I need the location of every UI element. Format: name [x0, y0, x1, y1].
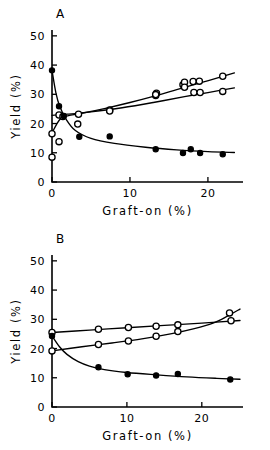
data-point-filled-circle [188, 147, 193, 152]
y-axis-title: Yield (%) [9, 73, 23, 139]
data-point-open-circle-lower [153, 333, 159, 339]
data-point-filled-circle [56, 104, 61, 109]
x-tick-label: 0 [48, 187, 56, 200]
data-point-open-circle-lower [56, 139, 62, 145]
panel-letter: A [56, 7, 65, 21]
x-tick-label: 20 [200, 187, 215, 200]
data-point-open-circle-upper [228, 318, 234, 324]
y-tick-label: 10 [30, 372, 45, 385]
data-point-filled-circle [175, 371, 180, 376]
data-point-open-circle-lower [153, 92, 159, 98]
data-point-open-circle-lower [107, 108, 113, 114]
y-tick-label: 20 [30, 343, 45, 356]
data-point-open-circle-upper [196, 78, 202, 84]
data-point-filled-circle [77, 134, 82, 139]
data-point-open-circle-lower [75, 121, 81, 127]
data-point-filled-circle [180, 150, 185, 155]
data-point-open-circle-lower [220, 88, 226, 94]
data-point-filled-circle [198, 150, 203, 155]
y-tick-label: 30 [30, 88, 45, 101]
x-axis-title: Graft-on (%) [102, 429, 193, 443]
data-point-filled-circle [154, 373, 159, 378]
data-point-open-circle-upper [49, 131, 55, 137]
y-tick-label: 20 [30, 118, 45, 131]
x-axis-title: Graft-on (%) [102, 204, 193, 218]
x-tick-label: 0 [48, 412, 56, 425]
y-tick-label: 30 [30, 313, 45, 326]
data-point-open-circle-lower [95, 341, 101, 347]
figure-container: 0102030405001020Graft-on (%)Yield (%)A 0… [0, 0, 270, 450]
data-point-filled-circle [61, 113, 66, 118]
data-point-open-circle-upper [190, 78, 196, 84]
curve-open-circle-lower [52, 309, 240, 351]
curve-open-circle-upper [52, 320, 240, 332]
data-point-open-circle-lower [226, 310, 232, 316]
data-point-open-circle-upper [220, 73, 226, 79]
data-point-open-circle-upper [125, 324, 131, 330]
data-point-open-circle-lower [49, 154, 55, 160]
y-tick-label: 50 [30, 30, 45, 43]
data-point-open-circle-upper [95, 326, 101, 332]
axis-lines [52, 30, 243, 182]
data-point-open-circle-upper [175, 322, 181, 328]
panel-a-plot: 0102030405001020Graft-on (%)Yield (%)A [0, 0, 270, 225]
data-point-filled-circle [125, 372, 130, 377]
panel-b-plot: 0102030405001020Graft-on (%)Yield (%)B [0, 225, 270, 450]
data-point-filled-circle [228, 377, 233, 382]
y-tick-label: 0 [38, 401, 46, 414]
y-tick-label: 40 [30, 59, 45, 72]
data-point-filled-circle [107, 134, 112, 139]
data-point-open-circle-lower [181, 84, 187, 90]
x-tick-label: 20 [194, 412, 209, 425]
panel-b: 0102030405001020Graft-on (%)Yield (%)B [0, 225, 270, 450]
data-point-open-circle-lower [125, 338, 131, 344]
x-tick-label: 10 [119, 412, 134, 425]
data-point-filled-circle [220, 152, 225, 157]
y-tick-label: 40 [30, 284, 45, 297]
data-point-filled-circle [96, 365, 101, 370]
y-tick-label: 0 [38, 176, 46, 189]
y-tick-label: 10 [30, 147, 45, 160]
data-point-open-circle-lower [197, 89, 203, 95]
y-axis-title: Yield (%) [9, 298, 23, 364]
data-point-open-circle-lower [191, 89, 197, 95]
data-point-open-circle-lower [175, 328, 181, 334]
data-point-open-circle-upper [153, 323, 159, 329]
panel-a: 0102030405001020Graft-on (%)Yield (%)A [0, 0, 270, 225]
panel-letter: B [56, 232, 64, 246]
data-point-open-circle-lower [49, 348, 55, 354]
data-point-filled-circle [49, 68, 54, 73]
data-point-open-circle-upper [75, 111, 81, 117]
x-tick-label: 10 [122, 187, 137, 200]
data-point-filled-circle [49, 333, 54, 338]
curve-filled-circle [52, 336, 240, 379]
data-point-filled-circle [153, 147, 158, 152]
y-tick-label: 50 [30, 255, 45, 268]
